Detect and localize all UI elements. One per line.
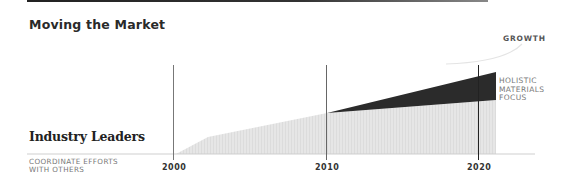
x-tick-2000: 2000 [162,163,186,172]
industry-leaders-area [176,100,496,154]
holistic-materials-label: HOLISTIC MATERIALS FOCUS [499,77,544,103]
growth-arc [446,44,522,64]
coordinate-efforts-label: COORDINATE EFFORTS WITH OTHERS [29,158,118,174]
x-tick-2020: 2020 [467,163,491,172]
x-tick-2010: 2010 [315,163,339,172]
industry-leaders-heading: Industry Leaders [29,129,145,144]
coord-line-2: WITH OTHERS [29,166,118,174]
growth-label: GROWTH [503,34,546,43]
holistic-line-3: FOCUS [499,94,544,103]
